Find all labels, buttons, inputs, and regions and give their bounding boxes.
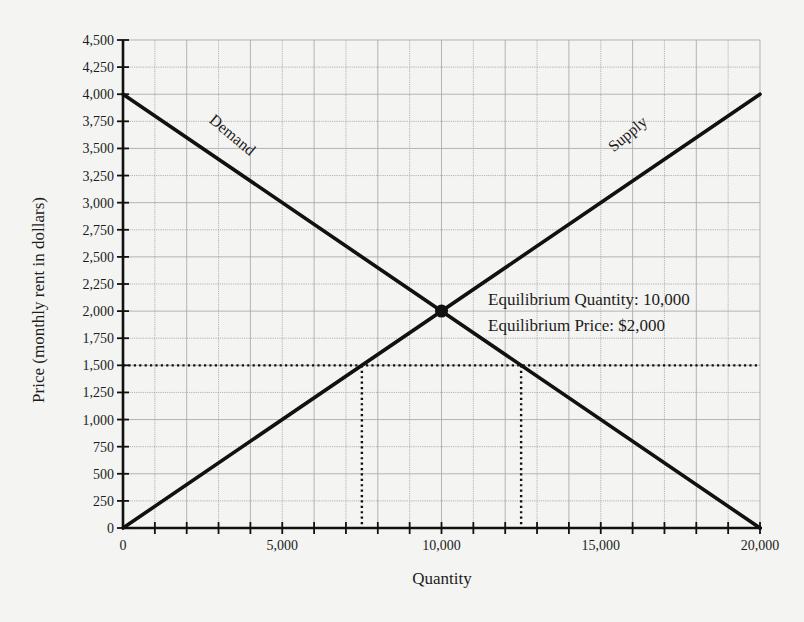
y-tick-label: 3,250 — [83, 169, 115, 184]
x-tick-label: 15,000 — [582, 538, 621, 553]
x-axis-title: Quantity — [412, 569, 472, 588]
x-tick-label: 10,000 — [422, 538, 461, 553]
equilibrium-price-annotation: Equilibrium Price: $2,000 — [488, 316, 665, 335]
y-tick-label: 0 — [107, 521, 114, 536]
x-tick-label: 5,000 — [267, 538, 299, 553]
labels: Price (monthly rent in dollars) Quantity… — [29, 33, 779, 588]
y-tick-label: 750 — [93, 440, 114, 455]
y-tick-label: 3,750 — [83, 114, 115, 129]
y-tick-label: 3,000 — [83, 196, 115, 211]
chart-canvas: Price (monthly rent in dollars) Quantity… — [0, 0, 804, 622]
y-tick-label: 250 — [93, 494, 114, 509]
y-tick-label: 1,000 — [83, 413, 115, 428]
supply-curve-label: Supply — [605, 113, 651, 156]
y-tick-label: 1,250 — [83, 385, 115, 400]
y-tick-label: 2,000 — [83, 304, 115, 319]
y-tick-label: 1,500 — [83, 358, 115, 373]
y-tick-label: 500 — [93, 467, 114, 482]
supply-demand-chart: Price (monthly rent in dollars) Quantity… — [0, 0, 804, 622]
y-axis-title: Price (monthly rent in dollars) — [29, 197, 48, 403]
y-tick-label: 3,500 — [83, 141, 115, 156]
y-tick-label: 1,750 — [83, 331, 115, 346]
equilibrium-quantity-annotation: Equilibrium Quantity: 10,000 — [488, 290, 690, 309]
y-tick-label: 4,000 — [83, 87, 115, 102]
y-tick-label: 2,500 — [83, 250, 115, 265]
x-tick-label: 0 — [120, 538, 127, 553]
y-tick-label: 4,500 — [83, 33, 115, 48]
y-tick-label: 2,250 — [83, 277, 115, 292]
equilibrium-point — [435, 305, 448, 318]
x-tick-label: 20,000 — [741, 538, 780, 553]
y-tick-label: 4,250 — [83, 60, 115, 75]
y-tick-label: 2,750 — [83, 223, 115, 238]
